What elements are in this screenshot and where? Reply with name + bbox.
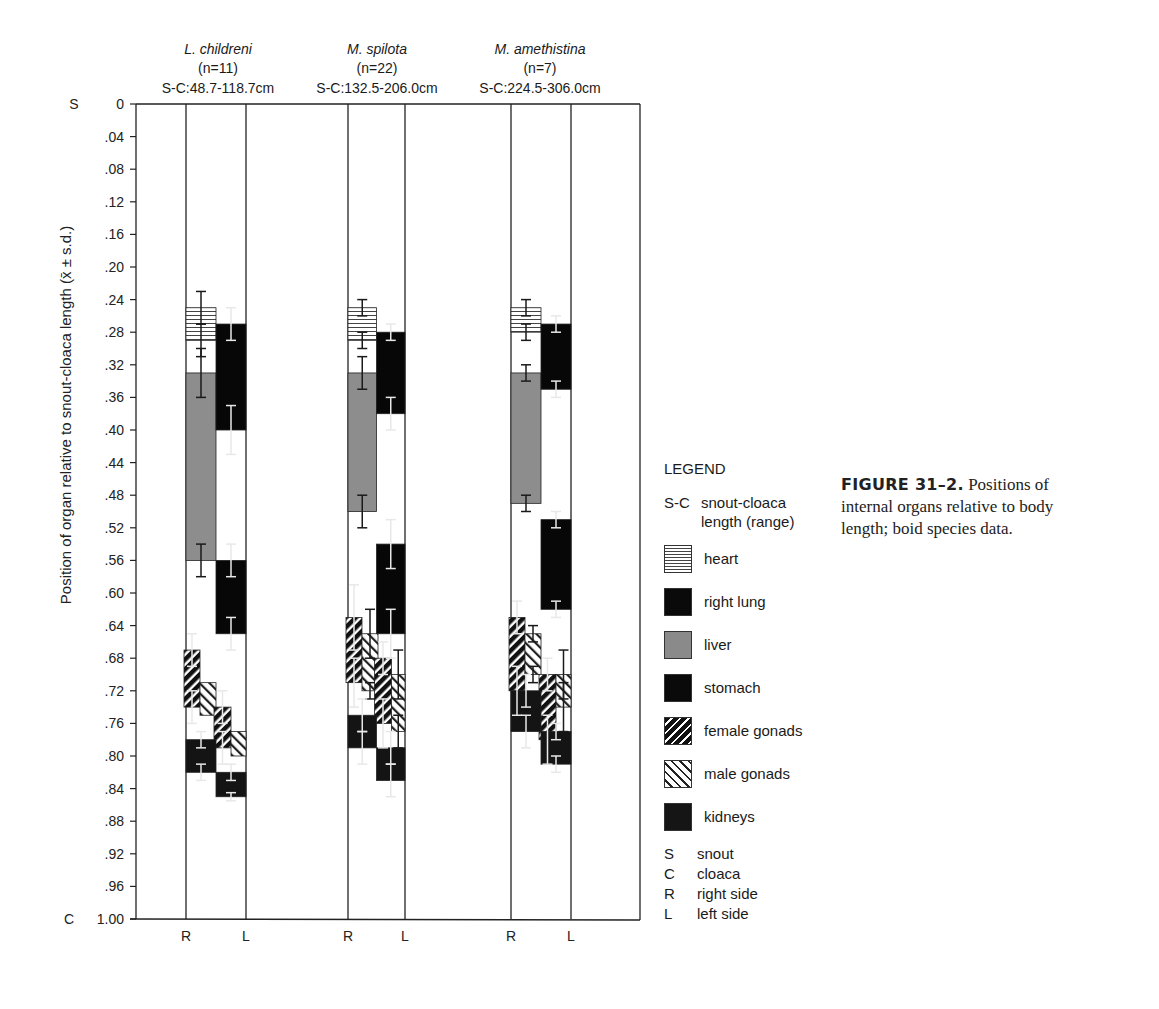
- y-axis-label: Position of organ relative to snout-cloa…: [57, 226, 74, 604]
- definition-abbr: L: [664, 904, 697, 924]
- y-tick-label: .52: [105, 520, 125, 536]
- legend-item-label: female gonads: [704, 722, 802, 739]
- legend-sc-desc: snout-cloaca length (range): [701, 493, 811, 531]
- y-tick-label: .88: [105, 813, 125, 829]
- legend-item-heart: heart: [664, 537, 844, 580]
- organ-position-chart: 0.04.08.12.16.20.24.28.32.36.40.44.48.52…: [0, 0, 660, 1009]
- y-tick-label: .04: [105, 129, 125, 145]
- legend-items: heartright lungliverstomachfemale gonads…: [664, 537, 844, 838]
- y-tick-label: .24: [105, 292, 125, 308]
- legend-item-kidneys: kidneys: [664, 795, 844, 838]
- bar-stomach: [541, 520, 571, 610]
- y-tick-label: 0: [116, 96, 124, 112]
- side-labels: RLRLRL: [181, 928, 575, 944]
- y-tick-label: .56: [105, 552, 125, 568]
- y-tick-label: .64: [105, 618, 125, 634]
- y-tick-label: .76: [105, 715, 125, 731]
- y-tick-label: .40: [105, 422, 125, 438]
- legend-sc-abbr: S-C: [664, 493, 701, 531]
- kidneys-swatch-icon: [664, 803, 692, 831]
- sample-size: (n=7): [523, 60, 556, 76]
- sc-range: S-C:48.7-118.7cm: [162, 80, 275, 96]
- definition-abbr: C: [664, 864, 697, 884]
- stomach-swatch-icon: [664, 674, 692, 702]
- definition-text: right side: [697, 884, 758, 904]
- legend-item-liver: liver: [664, 623, 844, 666]
- liver-swatch-icon: [664, 631, 692, 659]
- legend-item-label: heart: [704, 550, 738, 567]
- definition-abbr: S: [664, 844, 697, 864]
- sample-size: (n=22): [357, 60, 398, 76]
- species-headers: L. childreni(n=11)S-C:48.7-118.7cmM. spi…: [162, 41, 601, 96]
- y-bottom-label-cloaca: C: [64, 911, 74, 927]
- legend-item-label: right lung: [704, 593, 766, 610]
- y-tick-label: .92: [105, 846, 125, 862]
- legend-item-male-gonads: male gonads: [664, 752, 844, 795]
- definition-text: snout: [697, 844, 734, 864]
- legend-definition: Ssnout: [664, 844, 844, 864]
- y-tick-label: .32: [105, 357, 125, 373]
- legend-item-label: kidneys: [704, 808, 755, 825]
- side-label-left: L: [401, 928, 409, 944]
- figure-caption: FIGURE 31–2. Positions of internal organ…: [841, 474, 1101, 540]
- bar-right-lung: [541, 324, 571, 389]
- y-tick-label: .96: [105, 878, 125, 894]
- male-gonads-swatch-icon: [664, 760, 692, 788]
- side-label-left: L: [567, 928, 575, 944]
- legend-definitions: SsnoutCcloacaRright sideLleft side: [664, 844, 844, 924]
- legend: LEGEND S-C snout-cloaca length (range) h…: [664, 460, 844, 924]
- side-label-right: R: [506, 928, 516, 944]
- legend-definition: Lleft side: [664, 904, 844, 924]
- y-tick-label: .68: [105, 650, 125, 666]
- definition-text: cloaca: [697, 864, 740, 884]
- y-top-label-snout: S: [69, 96, 78, 112]
- legend-item-label: male gonads: [704, 765, 790, 782]
- y-tick-label: .20: [105, 259, 125, 275]
- side-label-right: R: [343, 928, 353, 944]
- definition-abbr: R: [664, 884, 697, 904]
- y-tick-label: .80: [105, 748, 125, 764]
- definition-text: left side: [697, 904, 749, 924]
- bar-liver: [186, 373, 216, 560]
- bar-liver: [511, 373, 541, 503]
- bar-liver: [348, 373, 377, 512]
- y-tick-label: .16: [105, 226, 125, 242]
- y-tick-label: .44: [105, 455, 125, 471]
- y-tick-label: .36: [105, 389, 125, 405]
- legend-definition: Rright side: [664, 884, 844, 904]
- bar-male-gonads: [231, 732, 246, 756]
- y-tick-label: .84: [105, 781, 125, 797]
- legend-item-female-gonads: female gonads: [664, 709, 844, 752]
- sc-range: S-C:224.5-306.0cm: [479, 80, 600, 96]
- sample-size: (n=11): [198, 60, 238, 76]
- heart-swatch-icon: [664, 545, 692, 573]
- y-tick-label: .12: [105, 194, 125, 210]
- legend-item-right-lung: right lung: [664, 580, 844, 623]
- side-label-left: L: [242, 928, 250, 944]
- legend-title: LEGEND: [664, 460, 844, 477]
- y-tick-label: .08: [105, 161, 125, 177]
- legend-item-label: liver: [704, 636, 732, 653]
- y-tick-label: 1.00: [97, 911, 124, 927]
- legend-sc-definition: S-C snout-cloaca length (range): [664, 493, 844, 531]
- y-axis: 0.04.08.12.16.20.24.28.32.36.40.44.48.52…: [64, 96, 136, 927]
- organ-bars: [184, 308, 571, 797]
- legend-item-stomach: stomach: [664, 666, 844, 709]
- figure-label: FIGURE 31–2.: [841, 475, 964, 494]
- legend-definition: Ccloaca: [664, 864, 844, 884]
- y-tick-label: .28: [105, 324, 125, 340]
- y-tick-label: .60: [105, 585, 125, 601]
- species-name: M. spilota: [347, 41, 407, 57]
- species-name: L. childreni: [184, 41, 253, 57]
- sc-range: S-C:132.5-206.0cm: [316, 80, 437, 96]
- y-tick-label: .48: [105, 487, 125, 503]
- side-label-right: R: [181, 928, 191, 944]
- legend-item-label: stomach: [704, 679, 761, 696]
- species-name: M. amethistina: [494, 41, 585, 57]
- right-lung-swatch-icon: [664, 588, 692, 616]
- female-gonads-swatch-icon: [664, 717, 692, 745]
- y-tick-label: .72: [105, 683, 125, 699]
